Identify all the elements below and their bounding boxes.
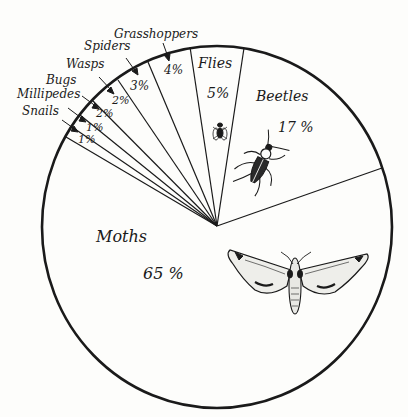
pct-spiders: 3%: [130, 80, 149, 92]
pct-flies: 5%: [207, 86, 229, 100]
label-wasps: Wasps: [66, 58, 104, 70]
pct-moths: 65 %: [143, 266, 184, 282]
pct-snails: 1%: [78, 134, 95, 145]
pct-wasps: 2%: [112, 95, 129, 106]
label-beetles: Beetles: [256, 89, 308, 103]
label-flies: Flies: [198, 56, 232, 70]
pct-beetles: 17 %: [278, 120, 314, 134]
label-millipedes: Millipedes: [17, 88, 80, 100]
label-spiders: Spiders: [84, 40, 130, 52]
pct-grasshoppers: 4%: [164, 64, 183, 76]
label-moths: Moths: [96, 229, 147, 245]
pct-bugs: 2%: [96, 108, 113, 119]
label-bugs: Bugs: [46, 74, 76, 86]
label-snails: Snails: [22, 105, 59, 117]
pct-millipedes: 1%: [86, 122, 103, 133]
